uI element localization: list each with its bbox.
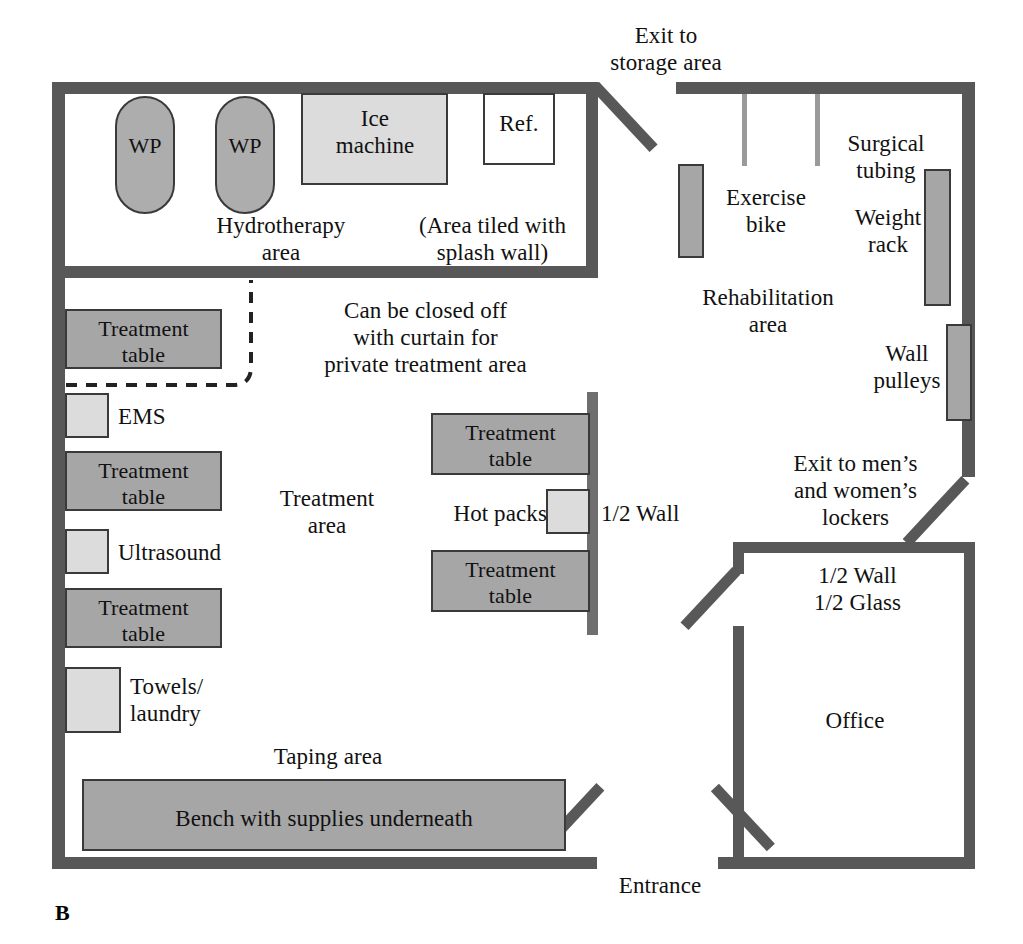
label-treatment-table-4: Treatment table: [432, 420, 589, 472]
label-office: Office: [800, 707, 910, 734]
label-whirlpool-left: WP: [117, 133, 173, 159]
label-treatment-table-3: Treatment table: [66, 595, 221, 647]
hot-packs[interactable]: [547, 490, 589, 533]
label-ultrasound: Ultrasound: [118, 539, 258, 566]
wall-top-left-exterior: [52, 82, 598, 94]
label-half-wall-half-glass: 1/2 Wall 1/2 Glass: [790, 562, 925, 616]
label-weight-rack: Weight rack: [838, 204, 938, 258]
exit-storage-door[interactable]: [591, 82, 658, 152]
label-curtain-note: Can be closed off with curtain for priva…: [283, 297, 568, 378]
surgical-tubing-group: [742, 94, 820, 166]
wall-bottom-exterior-left: [52, 857, 597, 869]
wall-office-right: [964, 542, 975, 869]
label-wall-pulleys: Wall pulleys: [858, 340, 956, 394]
label-taping-area: Taping area: [258, 743, 398, 770]
label-whirlpool-right: WP: [217, 133, 273, 159]
label-exit-storage: Exit to storage area: [576, 22, 756, 76]
label-treatment-table-5: Treatment table: [432, 557, 589, 609]
wall-vertical-center-top: [586, 82, 598, 278]
label-half-wall: 1/2 Wall: [601, 500, 701, 527]
label-treatment-area: Treatment area: [247, 485, 407, 539]
label-area-tiled: (Area tiled with splash wall): [400, 212, 585, 266]
label-exercise-bike: Exercise bike: [706, 184, 826, 238]
label-treatment-table-1: Treatment table: [66, 316, 221, 368]
left-wall-equipment: [66, 310, 221, 732]
exercise-bike[interactable]: [679, 165, 703, 257]
label-refrigerator: Ref.: [484, 110, 554, 137]
office-door[interactable]: [681, 567, 741, 630]
wall-bottom-exterior-right: [718, 857, 975, 869]
label-rehabilitation-area: Rehabilitation area: [668, 284, 868, 338]
label-bench: Bench with supplies underneath: [83, 805, 565, 832]
towels-laundry[interactable]: [66, 668, 120, 732]
ems-unit[interactable]: [66, 394, 108, 437]
surgical-tubing-line-1: [742, 94, 747, 166]
label-entrance: Entrance: [600, 872, 720, 899]
label-ems: EMS: [118, 403, 208, 430]
label-ice-machine: Ice machine: [302, 105, 448, 159]
wall-top-right-exterior: [676, 82, 975, 94]
label-exit-lockers: Exit to men’s and women’s lockers: [748, 450, 963, 531]
wall-hydrotherapy-bottom: [52, 266, 598, 278]
wall-office-left: [733, 626, 744, 869]
wall-office-top: [733, 542, 975, 553]
label-treatment-table-2: Treatment table: [66, 458, 221, 510]
label-surgical-tubing: Surgical tubing: [816, 130, 956, 184]
label-hydrotherapy-area: Hydrotherapy area: [181, 212, 381, 266]
ultrasound-unit[interactable]: [66, 530, 108, 573]
label-towels-laundry: Towels/ laundry: [130, 673, 240, 727]
panel-letter: B: [55, 900, 70, 926]
label-hot-packs: Hot packs: [425, 500, 547, 527]
wall-left-exterior: [52, 82, 65, 869]
